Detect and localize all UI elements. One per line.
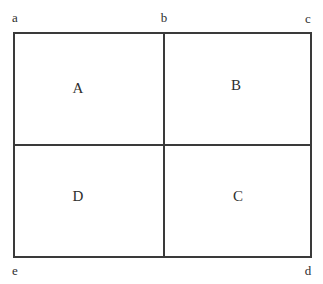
region-label-b: B — [220, 78, 252, 93]
region-label-c: C — [222, 189, 254, 204]
vertex-label-a: a — [8, 11, 22, 24]
region-label-a: A — [62, 81, 94, 96]
vertex-label-b: b — [157, 11, 171, 24]
region-label-d: D — [62, 189, 94, 204]
vertex-label-d: d — [301, 264, 315, 277]
diagram-canvas: A B C D a b c d e — [0, 0, 323, 284]
horizontal-divider-line — [13, 144, 312, 146]
vertex-label-e: e — [8, 264, 22, 277]
vertex-label-c: c — [301, 12, 315, 25]
